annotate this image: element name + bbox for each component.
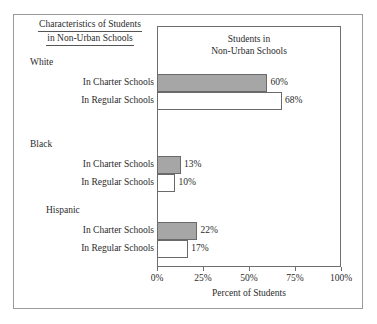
row-label-hispanic-regular: In Regular Schools: [42, 243, 154, 253]
group-label-white: White: [30, 57, 154, 67]
row-label-white-charter: In Charter Schools: [42, 77, 154, 87]
figure-caption: Characteristics of Students in Non-Urban…: [20, 18, 160, 46]
x-tick-mark-25: [203, 267, 204, 271]
x-axis-title: Percent of Students: [157, 288, 341, 298]
bar-white-regular: [157, 92, 282, 110]
row-label-black-regular: In Regular Schools: [42, 177, 154, 187]
bar-hispanic-charter: [157, 222, 197, 240]
x-tick-label-50: 50%: [229, 273, 269, 283]
x-tick-mark-0: [157, 267, 158, 271]
x-tick-mark-50: [249, 267, 250, 271]
row-label-black-charter: In Charter Schools: [42, 159, 154, 169]
x-tick-mark-100: [341, 267, 342, 271]
bar-hispanic-regular: [157, 240, 188, 258]
bar-black-charter: [157, 156, 181, 174]
group-label-black: Black: [30, 139, 154, 149]
bar-value-black-charter: 13%: [184, 159, 201, 169]
plot-title-line-1: Students in: [228, 34, 271, 44]
x-tick-label-75: 75%: [275, 273, 315, 283]
caption-line-1: Characteristics of Students: [38, 18, 142, 32]
x-tick-label-0: 0%: [137, 273, 177, 283]
row-label-hispanic-charter: In Charter Schools: [42, 225, 154, 235]
plot-title-line-2: Non-Urban Schools: [211, 46, 287, 56]
bar-value-white-regular: 68%: [285, 95, 302, 105]
group-label-hispanic: Hispanic: [46, 205, 170, 215]
caption-line-2: in Non-Urban Schools: [46, 32, 134, 46]
x-tick-label-100: 100%: [321, 273, 361, 283]
x-tick-label-25: 25%: [183, 273, 223, 283]
x-tick-mark-75: [295, 267, 296, 271]
plot-title: Students in Non-Urban Schools: [157, 33, 341, 57]
bar-value-hispanic-charter: 22%: [200, 225, 217, 235]
row-label-white-regular: In Regular Schools: [42, 95, 154, 105]
bar-black-regular: [157, 174, 175, 192]
chart-figure: Characteristics of Students in Non-Urban…: [0, 0, 377, 324]
bar-value-hispanic-regular: 17%: [191, 243, 208, 253]
bar-white-charter: [157, 74, 267, 92]
bar-value-white-charter: 60%: [270, 77, 287, 87]
bar-value-black-regular: 10%: [178, 177, 195, 187]
